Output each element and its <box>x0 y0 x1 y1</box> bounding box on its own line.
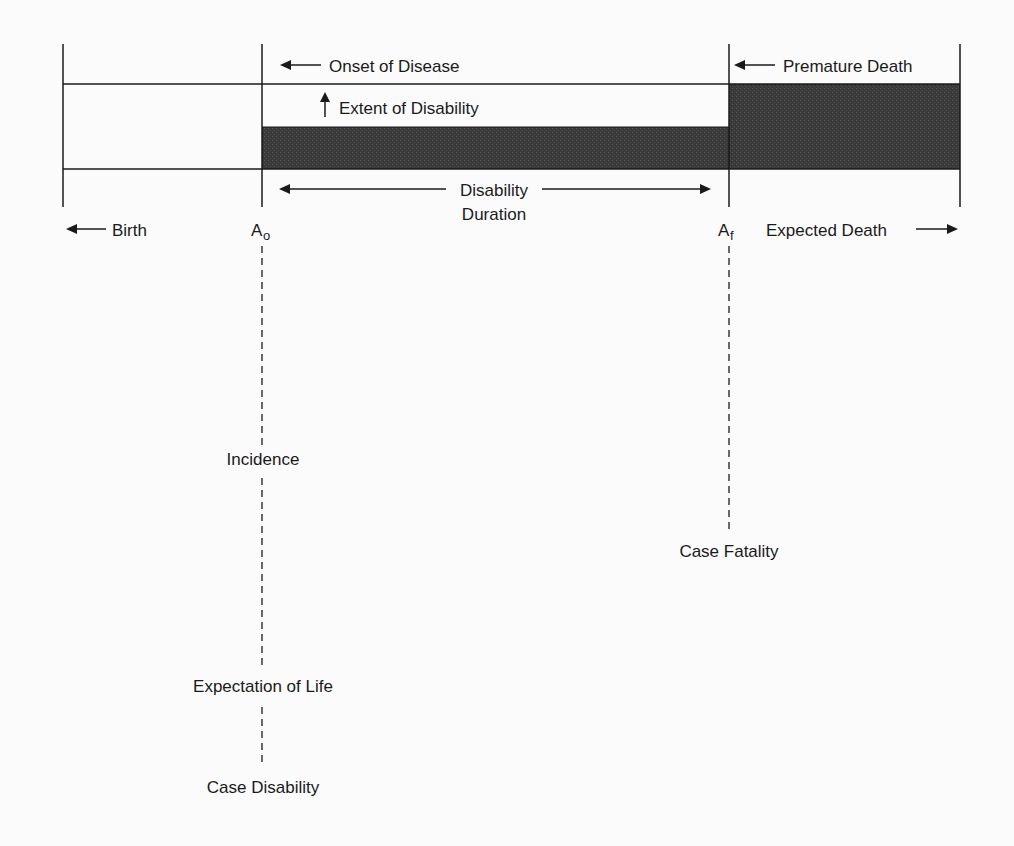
disability-duration-label-line2: Duration <box>462 205 526 224</box>
incidence-label: Incidence <box>227 450 300 469</box>
expectation-of-life-label: Expectation of Life <box>193 677 333 696</box>
disability-duration-label-line1: Disability <box>460 181 529 200</box>
case-fatality-label: Case Fatality <box>679 542 779 561</box>
disability-bar <box>262 127 729 169</box>
onset-of-disease-label: Onset of Disease <box>329 57 459 76</box>
final-marker-main: A <box>718 221 730 240</box>
premature-death-left-arrow-icon <box>734 60 775 70</box>
onset-marker-main: A <box>251 221 263 240</box>
premature-death-block <box>729 84 960 169</box>
disability-timeline-diagram: Onset of Disease Extent of Disability Pr… <box>0 0 1014 846</box>
final-marker-subscript: f <box>730 228 734 243</box>
onset-marker-subscript: o <box>263 228 270 243</box>
birth-left-arrow-icon <box>66 224 106 234</box>
extent-up-arrow-icon <box>320 92 330 117</box>
onset-age-marker: A o <box>251 221 270 243</box>
duration-left-arrow-icon <box>279 184 446 194</box>
birth-label: Birth <box>112 221 147 240</box>
case-disability-label: Case Disability <box>207 778 320 797</box>
expected-death-label: Expected Death <box>766 221 887 240</box>
expected-death-right-arrow-icon <box>916 224 958 234</box>
onset-left-arrow-icon <box>280 60 321 70</box>
final-age-marker: A f <box>718 221 734 243</box>
extent-of-disability-label: Extent of Disability <box>339 99 479 118</box>
duration-right-arrow-icon <box>542 184 711 194</box>
premature-death-label: Premature Death <box>783 57 912 76</box>
